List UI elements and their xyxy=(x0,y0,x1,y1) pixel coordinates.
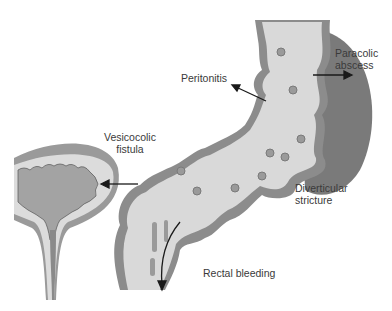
label-paracolic-line1: Paracolic xyxy=(335,47,378,59)
label-diverticular-line2: stricture xyxy=(295,194,348,206)
arrow-head-peritonitis xyxy=(232,85,240,91)
label-diverticular-stricture: Diverticular stricture xyxy=(295,182,348,206)
label-vesicocolic-line2: fistula xyxy=(104,143,156,155)
label-rectal-bleeding: Rectal bleeding xyxy=(203,267,275,279)
label-paracolic-line2: abscess xyxy=(335,59,378,71)
label-paracolic-abscess: Paracolic abscess xyxy=(335,47,378,71)
label-peritonitis: Peritonitis xyxy=(181,72,227,84)
diverticular-disease-diagram xyxy=(0,0,392,311)
label-diverticular-line1: Diverticular xyxy=(295,182,348,194)
label-vesicocolic-line1: Vesicocolic xyxy=(104,131,156,143)
label-vesicocolic-fistula: Vesicocolic fistula xyxy=(104,131,156,155)
